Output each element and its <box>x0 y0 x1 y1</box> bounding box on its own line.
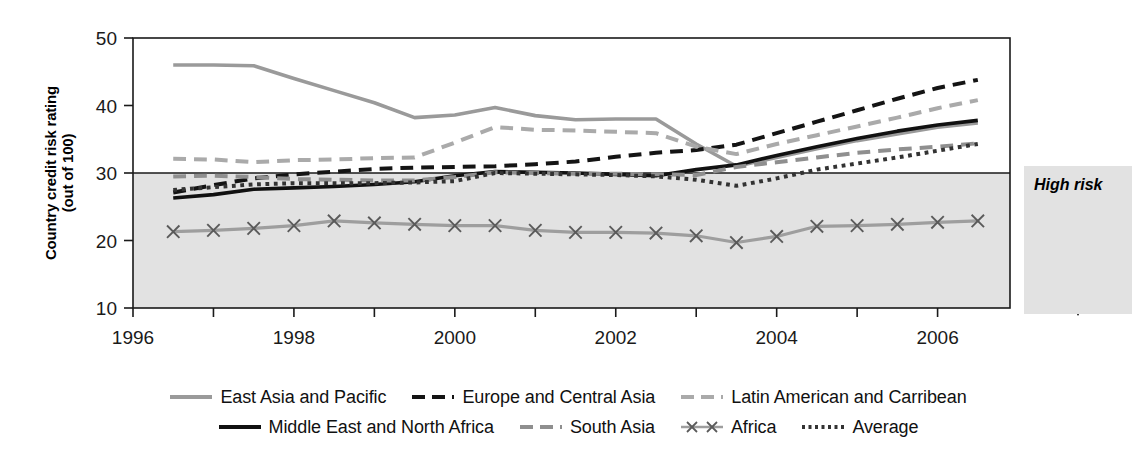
legend-swatch <box>681 419 723 435</box>
legend-swatch-icon <box>802 419 844 435</box>
y-tick-labels: 1020304050 <box>96 28 133 319</box>
legend-item-1-2[interactable]: Latin American and Carribean <box>681 387 966 408</box>
legend-swatch-icon <box>520 419 562 435</box>
legend-item-2-2[interactable]: Africa <box>681 417 776 438</box>
x-tick-labels: 199619982000200220042006 <box>112 308 959 348</box>
x-tick-label: 1998 <box>273 327 315 348</box>
legend-item-1-1[interactable]: Europe and Central Asia <box>412 387 655 408</box>
legend-item-1-0[interactable]: East Asia and Pacific <box>170 387 386 408</box>
legend-item-2-1[interactable]: South Asia <box>520 417 655 438</box>
x-tick-label: 2006 <box>916 327 958 348</box>
legend-item-2-0[interactable]: Middle East and North Africa <box>219 417 494 438</box>
y-tick-label: 50 <box>96 28 117 49</box>
legend-item-2-3[interactable]: Average <box>802 417 918 438</box>
legend-row-2: Middle East and North AfricaSouth AsiaAf… <box>0 412 1137 442</box>
x-tick-label: 1996 <box>112 327 154 348</box>
legend-label: South Asia <box>570 417 655 438</box>
legend-swatch <box>681 389 723 405</box>
shaded-high-risk-band <box>133 173 1010 308</box>
series-line-0 <box>173 65 978 166</box>
legend-swatch <box>219 419 261 435</box>
legend-row-1: East Asia and PacificEurope and Central … <box>0 382 1137 412</box>
legend-swatch <box>520 419 562 435</box>
plot-background <box>133 173 1010 308</box>
y-tick-label: 20 <box>96 231 117 252</box>
legend-swatch-icon <box>681 419 723 435</box>
legend-swatch <box>170 389 212 405</box>
legend-swatch-icon <box>170 389 212 405</box>
x-tick-label: 2002 <box>595 327 637 348</box>
legend-label: East Asia and Pacific <box>220 387 386 408</box>
legend-swatch <box>802 419 844 435</box>
chart-legend: East Asia and PacificEurope and Central … <box>0 382 1137 462</box>
y-tick-label: 40 <box>96 96 117 117</box>
legend-label: Africa <box>731 417 776 438</box>
y-tick-label: 10 <box>96 298 117 319</box>
legend-label: Average <box>852 417 918 438</box>
legend-swatch <box>412 389 454 405</box>
legend-swatch-icon <box>219 419 261 435</box>
x-tick-label: 2000 <box>434 327 476 348</box>
legend-swatch-icon <box>681 389 723 405</box>
legend-label: Latin American and Carribean <box>731 387 966 408</box>
chart-figure: Country credit risk rating (out of 100) … <box>0 0 1137 464</box>
y-tick-label: 30 <box>96 163 117 184</box>
high-risk-label: High risk <box>1034 176 1102 194</box>
x-tick-label: 2004 <box>756 327 799 348</box>
legend-swatch-icon <box>412 389 454 405</box>
legend-label: Middle East and North Africa <box>269 417 494 438</box>
legend-label: Europe and Central Asia <box>462 387 655 408</box>
